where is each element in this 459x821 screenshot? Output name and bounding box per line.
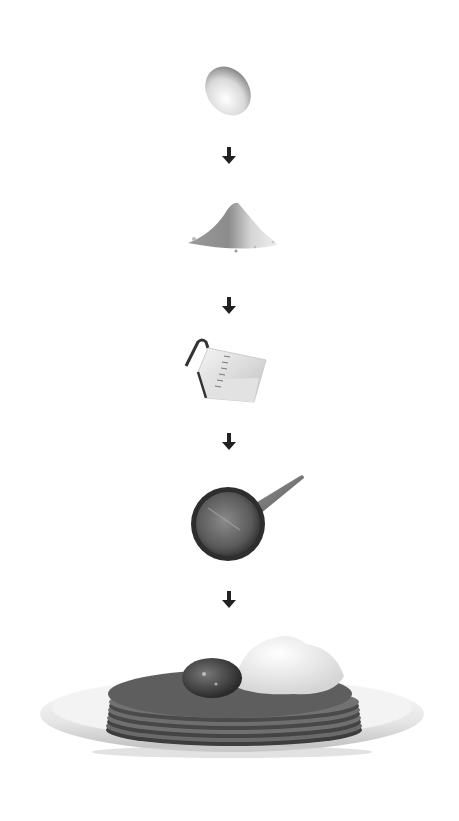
egg-icon [200,60,256,122]
arrow-down-icon [219,296,239,316]
arrow-down-icon [219,146,239,166]
arrow-down-icon [219,432,239,452]
pancake-stack-icon [34,626,430,766]
measuring-jug-icon [184,336,270,408]
arrow-down-icon [219,590,239,610]
frying-pan-icon [188,468,306,564]
flour-pile-icon [180,195,284,257]
